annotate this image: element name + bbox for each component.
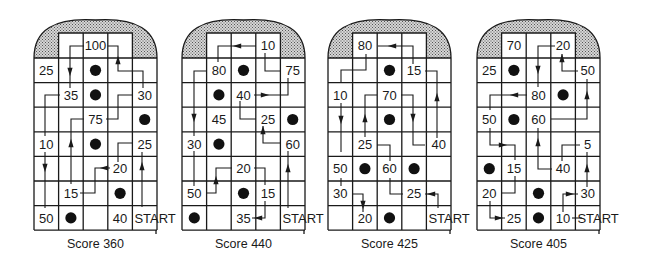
route-segment: [551, 79, 587, 119]
cell-value: 75: [88, 112, 102, 127]
route-segment: [45, 95, 60, 136]
obstacle-dot: [213, 89, 224, 100]
cell-value: 40: [113, 211, 127, 226]
obstacle-dot: [558, 89, 569, 100]
route-segment: [538, 128, 552, 169]
route-segment: [194, 71, 206, 136]
route-segment: [118, 143, 133, 162]
cell-value: 30: [137, 88, 151, 103]
cell-value: 45: [212, 112, 226, 127]
obstacle-dot: [238, 188, 249, 199]
cell-value: 15: [261, 186, 275, 201]
puzzle-grid: 702025508050605154020302510STARTScore 40…: [477, 20, 619, 251]
obstacle-dot: [189, 212, 200, 223]
cell-value: 30: [580, 186, 594, 201]
cell-value: 60: [531, 112, 545, 127]
cell-value: 35: [236, 211, 250, 226]
arrow-left-icon: [427, 191, 435, 196]
obstacle-dot: [238, 65, 249, 76]
arrow-up-icon: [535, 138, 540, 146]
obstacle-dot: [115, 188, 126, 199]
cell-value: 50: [580, 63, 594, 78]
cell-value: 80: [531, 88, 545, 103]
cell-value: 75: [285, 63, 299, 78]
cell-value: 10: [556, 211, 570, 226]
cell-value: 20: [556, 38, 570, 53]
cell-value: 30: [187, 137, 201, 152]
puzzles-layer: 10025353075102520155040STARTScore 360108…: [34, 20, 619, 251]
arrow-up-icon: [139, 162, 144, 170]
arrow-left-icon: [100, 165, 108, 170]
obstacle-dot: [359, 163, 370, 174]
cell-value: 10: [261, 38, 275, 53]
cell-value: 40: [236, 88, 250, 103]
start-label: START: [282, 211, 323, 226]
route-segment: [240, 101, 256, 119]
arrow-up-icon: [285, 164, 290, 172]
arrow-down-icon: [338, 116, 343, 124]
cell-value: 50: [333, 161, 347, 176]
cell-value: 15: [407, 63, 421, 78]
cell-value: 25: [137, 137, 151, 152]
obstacle-dot: [213, 139, 224, 150]
puzzle-grid: 108075404525306020501535STARTScore 440: [182, 20, 324, 251]
route-segment: [502, 176, 515, 193]
route-segment: [71, 119, 84, 184]
arrow-right-icon: [566, 191, 574, 196]
cell-value: 60: [382, 161, 396, 176]
cell-value: 25: [407, 186, 421, 201]
obstacle-dot: [90, 65, 101, 76]
score-caption: Score 440: [215, 237, 272, 251]
cell-value: 20: [358, 211, 372, 226]
arrow-up-icon: [434, 93, 439, 101]
cell-value: 70: [382, 88, 396, 103]
arrow-up-icon: [213, 176, 218, 184]
arrow-down-icon: [535, 66, 540, 74]
cell-value: 70: [507, 38, 521, 53]
cell-value: 25: [482, 63, 496, 78]
cell-value: 40: [556, 161, 570, 176]
arrow-left-icon: [254, 215, 262, 220]
route-segment: [377, 145, 390, 161]
cell-value: 20: [482, 186, 496, 201]
puzzle-canvas: 10025353075102520155040STARTScore 360108…: [0, 0, 654, 263]
cell-value: 15: [507, 161, 521, 176]
obstacle-dot: [409, 163, 420, 174]
puzzle-grid: 8015107025405060302520STARTScore 425: [328, 20, 470, 251]
cell-value: 40: [431, 137, 445, 152]
obstacle-dot: [508, 114, 519, 125]
route-segment: [365, 95, 377, 137]
obstacle-dot: [65, 212, 76, 223]
start-label: START: [428, 211, 469, 226]
route-segment: [254, 78, 288, 95]
cell-value: 5: [584, 137, 591, 152]
score-caption: Score 425: [361, 237, 418, 251]
obstacle-dot: [287, 114, 298, 125]
route-segment: [562, 145, 580, 161]
obstacle-dot: [533, 188, 544, 199]
arrow-right-icon: [261, 92, 269, 97]
puzzle-grid: 10025353075102520155040STARTScore 360: [34, 20, 176, 251]
cell-value: 25: [39, 63, 53, 78]
start-label: START: [577, 211, 618, 226]
cell-value: 50: [39, 211, 53, 226]
cell-value: 35: [64, 88, 78, 103]
cell-value: 25: [261, 112, 275, 127]
cell-value: 15: [64, 186, 78, 201]
route-segment: [490, 201, 505, 218]
arrow-up-icon: [584, 164, 589, 172]
obstacle-dot: [384, 65, 395, 76]
score-caption: Score 405: [510, 237, 567, 251]
cell-value: 80: [212, 63, 226, 78]
obstacle-dot: [384, 114, 395, 125]
obstacle-dot: [533, 212, 544, 223]
cell-value: 25: [358, 137, 372, 152]
score-caption: Score 360: [67, 237, 124, 251]
obstacle-dot: [484, 163, 495, 174]
cell-value: 25: [507, 211, 521, 226]
arrow-down-icon: [191, 114, 196, 122]
cell-value: 30: [333, 186, 347, 201]
arrow-down-icon: [67, 68, 72, 76]
arrow-down-icon: [410, 114, 415, 122]
arrow-up-icon: [68, 139, 73, 147]
